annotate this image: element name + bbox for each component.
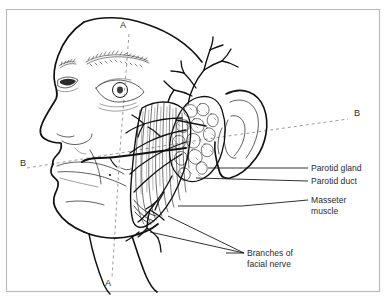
label-branches-facial-nerve-line2: facial nerve bbox=[247, 259, 291, 269]
section-marker-a-top: A bbox=[120, 20, 127, 30]
anatomy-illustration: Parotid gland Parotid duct Masseter musc… bbox=[0, 0, 392, 300]
label-branches-facial-nerve-line1: Branches of bbox=[247, 248, 293, 258]
section-marker-a-bottom: A bbox=[105, 278, 112, 288]
anatomy-figure: Parotid gland Parotid duct Masseter musc… bbox=[0, 0, 392, 300]
label-parotid-gland: Parotid gland bbox=[311, 163, 362, 173]
label-parotid-duct: Parotid duct bbox=[311, 176, 357, 186]
label-masseter-muscle-line1: Masseter bbox=[311, 195, 346, 205]
label-masseter-muscle-line2: muscle bbox=[311, 206, 338, 216]
figure-background bbox=[0, 0, 392, 300]
section-marker-b-left: B bbox=[20, 158, 26, 168]
section-marker-b-right: B bbox=[354, 108, 360, 118]
